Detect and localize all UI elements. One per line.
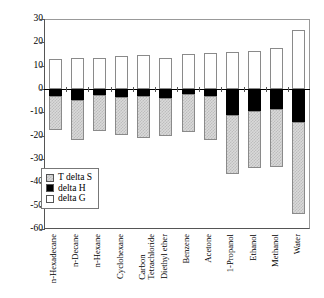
legend-item[interactable]: delta G: [46, 194, 92, 204]
bar-group[interactable]: [226, 19, 239, 229]
x-axis-label: Acetone: [204, 234, 213, 263]
bar-segment-delta-g[interactable]: [49, 59, 62, 89]
x-axis-label: Diethyl ether: [160, 234, 169, 279]
bar-segment-t-delta-s[interactable]: [270, 109, 283, 167]
x-axis-label: n-Hexane: [93, 234, 102, 267]
bar-segment-t-delta-s[interactable]: [49, 96, 62, 130]
x-axis-tick-mark: [66, 87, 67, 92]
bar-segment-t-delta-s[interactable]: [182, 94, 195, 132]
bar-segment-delta-h[interactable]: [226, 89, 239, 115]
legend-item[interactable]: delta H: [46, 184, 92, 194]
x-axis-tick-mark: [221, 87, 222, 92]
x-axis-label: Benzene: [182, 234, 191, 264]
bar-segment-t-delta-s[interactable]: [159, 98, 172, 136]
x-axis-tick-mark: [111, 87, 112, 92]
bar-segment-delta-g[interactable]: [115, 56, 128, 89]
bar-segment-t-delta-s[interactable]: [292, 122, 305, 214]
x-axis-tick-mark: [155, 87, 156, 92]
legend-label: delta G: [58, 194, 86, 204]
x-axis-label: n-Decane: [71, 234, 80, 267]
bar-group[interactable]: [182, 19, 195, 229]
x-axis-tick-mark: [266, 87, 267, 92]
bar-group[interactable]: [159, 19, 172, 229]
bar-segment-delta-h[interactable]: [159, 89, 172, 98]
bar-segment-t-delta-s[interactable]: [115, 97, 128, 135]
y-axis-tick-mark: [40, 229, 45, 230]
thermodynamics-bar-chart: 3020100-10-20-30-40-50-60 n-Hexadecanen-…: [0, 0, 324, 298]
bar-segment-t-delta-s[interactable]: [71, 100, 84, 140]
bar-segment-t-delta-s[interactable]: [226, 115, 239, 175]
bar-segment-delta-h[interactable]: [115, 89, 128, 97]
bar-group[interactable]: [204, 19, 217, 229]
bar-group[interactable]: [270, 19, 283, 229]
bar-group[interactable]: [248, 19, 261, 229]
bar-segment-delta-g[interactable]: [182, 54, 195, 89]
white-swatch: [46, 195, 54, 203]
bar-segment-delta-g[interactable]: [93, 58, 106, 89]
bar-segment-delta-h[interactable]: [248, 89, 261, 111]
bar-segment-t-delta-s[interactable]: [248, 111, 261, 169]
bar-segment-delta-g[interactable]: [137, 55, 150, 89]
bar-segment-delta-h[interactable]: [137, 89, 150, 96]
bar-segment-delta-h[interactable]: [49, 89, 62, 96]
x-axis-tick-mark: [177, 87, 178, 92]
x-axis-tick-mark: [199, 87, 200, 92]
bar-segment-t-delta-s[interactable]: [137, 96, 150, 137]
checkered-gray-swatch: [46, 174, 54, 182]
bar-group[interactable]: [292, 19, 305, 229]
bar-segment-delta-g[interactable]: [270, 48, 283, 89]
black-swatch: [46, 184, 54, 192]
bar-group[interactable]: [115, 19, 128, 229]
bar-segment-delta-h[interactable]: [71, 89, 84, 100]
bar-segment-delta-h[interactable]: [204, 89, 217, 96]
x-axis-tick-mark: [288, 87, 289, 92]
chart-legend: T delta Sdelta Hdelta G: [41, 168, 99, 209]
bar-segment-t-delta-s[interactable]: [93, 95, 106, 130]
x-axis-label: Carbon Tetrachloride: [138, 234, 156, 280]
bar-segment-delta-g[interactable]: [248, 51, 261, 90]
bar-segment-t-delta-s[interactable]: [204, 96, 217, 140]
x-axis-tick-mark: [133, 87, 134, 92]
bar-group[interactable]: [137, 19, 150, 229]
bar-segment-delta-g[interactable]: [226, 52, 239, 89]
bar-segment-delta-h[interactable]: [270, 89, 283, 109]
x-axis-label: n-Hexadecane: [49, 234, 58, 283]
x-axis-label: Methanol: [271, 234, 280, 267]
x-axis-label: Ethanol: [249, 234, 258, 261]
legend-label: T delta S: [58, 173, 92, 183]
bar-segment-delta-h[interactable]: [182, 89, 195, 94]
bar-segment-delta-g[interactable]: [71, 58, 84, 89]
bar-segment-delta-g[interactable]: [204, 53, 217, 89]
bar-segment-delta-h[interactable]: [292, 89, 305, 122]
x-axis-label: 1-Propanol: [226, 234, 235, 272]
bar-segment-delta-g[interactable]: [292, 30, 305, 90]
bar-segment-delta-g[interactable]: [159, 58, 172, 89]
legend-label: delta H: [58, 184, 86, 194]
bar-segment-delta-h[interactable]: [93, 89, 106, 95]
legend-item[interactable]: T delta S: [46, 173, 92, 183]
x-axis-label: Cyclohexane: [116, 234, 125, 279]
x-axis-label: Water: [293, 234, 302, 254]
x-axis-tick-mark: [244, 87, 245, 92]
x-axis-tick-mark: [88, 87, 89, 92]
